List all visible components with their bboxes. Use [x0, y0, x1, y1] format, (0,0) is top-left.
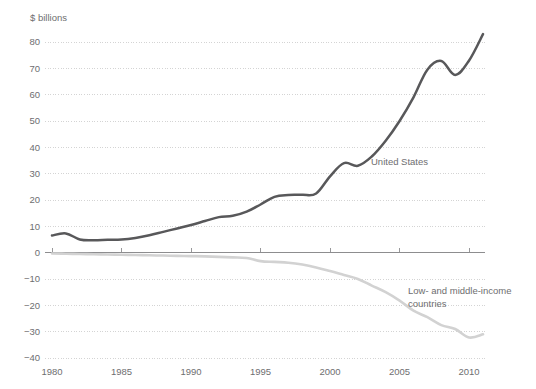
y-axis-tick-label: 70	[29, 63, 40, 74]
series-annotation-united-states: United States	[371, 156, 428, 167]
y-axis-labels-group: 80706050403020100−10−20−30−40	[24, 36, 40, 363]
y-axis-tick-label: 40	[29, 142, 40, 153]
y-axis-tick-label: 0	[35, 247, 40, 258]
series-line-united-states	[52, 34, 483, 240]
x-axis-tick-label: 2010	[459, 366, 480, 377]
x-axis-tick-label: 1995	[250, 366, 271, 377]
x-tick-marks-group	[52, 248, 469, 253]
chart-container: 80706050403020100−10−20−30−40 1980198519…	[0, 0, 536, 389]
y-axis-tick-label: 10	[29, 221, 40, 232]
y-axis-tick-label: −10	[24, 273, 40, 284]
x-axis-tick-label: 1990	[180, 366, 201, 377]
y-axis-tick-label: −40	[24, 352, 40, 363]
series-annotation-lmic-line2: countries	[408, 298, 447, 309]
y-axis-tick-label: 30	[29, 168, 40, 179]
y-axis-tick-label: 50	[29, 115, 40, 126]
x-axis-tick-label: 2005	[389, 366, 410, 377]
y-axis-tick-label: 80	[29, 36, 40, 47]
y-axis-tick-label: −30	[24, 326, 40, 337]
y-axis-tick-label: −20	[24, 300, 40, 311]
y-axis-tick-label: 60	[29, 89, 40, 100]
x-axis-tick-label: 1985	[111, 366, 132, 377]
x-axis-tick-label: 2000	[319, 366, 340, 377]
line-chart: 80706050403020100−10−20−30−40 1980198519…	[0, 0, 536, 389]
y-axis-unit-label: $ billions	[30, 12, 67, 23]
y-axis-tick-label: 20	[29, 194, 40, 205]
series-annotation-lmic-line1: Low- and middle-income	[408, 285, 512, 296]
x-axis-labels-group: 1980198519901995200020052010	[41, 366, 479, 377]
x-axis-tick-label: 1980	[41, 366, 62, 377]
gridlines-group	[45, 42, 485, 358]
